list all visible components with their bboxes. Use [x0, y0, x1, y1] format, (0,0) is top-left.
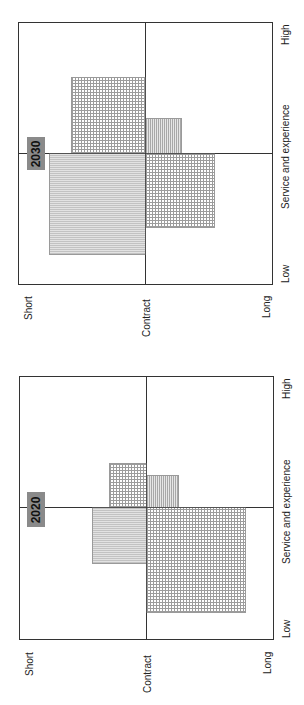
x-label-short: Short: [24, 652, 35, 676]
service-axis-line-overlay: [19, 507, 274, 508]
chart-panel-2020: 2020 High Service and experience Low Sho…: [0, 0, 304, 705]
y-label-low: Low: [281, 620, 292, 638]
y-axis-title: Service and experience: [281, 459, 292, 564]
year-label: 2020: [29, 496, 43, 523]
region-a: [109, 463, 147, 508]
region-b: [92, 507, 147, 564]
x-label-long: Long: [262, 652, 273, 674]
year-badge: 2020: [27, 492, 45, 527]
y-label-high: High: [281, 378, 292, 399]
region-c: [146, 475, 179, 508]
x-label-contract: Contract: [142, 655, 153, 693]
region-d: [146, 507, 246, 613]
